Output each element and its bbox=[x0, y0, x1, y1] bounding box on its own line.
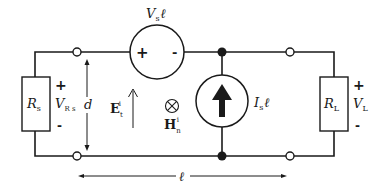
rs-plus-sign: + bbox=[55, 77, 67, 93]
e-field-label: Eti bbox=[110, 100, 123, 119]
d-label: d bbox=[84, 97, 92, 112]
node-bottom bbox=[218, 152, 227, 161]
wires bbox=[35, 52, 334, 156]
h-field-label: Hni bbox=[164, 116, 181, 135]
terminal-right-top bbox=[286, 48, 294, 56]
vs-plus-sign: + bbox=[136, 44, 149, 62]
vs-label: Vsℓ bbox=[146, 6, 167, 23]
is-label: Isℓ bbox=[253, 95, 270, 112]
vl-label: VL bbox=[353, 96, 368, 113]
length-label: ℓ bbox=[179, 169, 185, 184]
terminal-left-bottom bbox=[73, 152, 81, 160]
terminal-right-bottom bbox=[286, 152, 294, 160]
wire-rs-bottom bbox=[35, 131, 73, 156]
vrs-label: VR s bbox=[55, 96, 76, 113]
rl-minus-sign: - bbox=[355, 119, 360, 133]
h-field-into-page-icon bbox=[166, 100, 179, 113]
wire-rl-bottom bbox=[294, 131, 334, 156]
wire-rs-top bbox=[35, 52, 73, 77]
terminal-left-top bbox=[73, 48, 81, 56]
node-top bbox=[218, 48, 227, 57]
rs-minus-sign: - bbox=[57, 119, 62, 133]
wire-rl-top bbox=[294, 52, 334, 77]
vs-minus-sign: - bbox=[172, 45, 177, 60]
circuit-diagram: Rs + - VR s d + - Vsℓ Eti Hni Isℓ bbox=[0, 0, 383, 190]
rl-plus-sign: + bbox=[353, 77, 365, 93]
e-field-arrow bbox=[129, 89, 138, 128]
